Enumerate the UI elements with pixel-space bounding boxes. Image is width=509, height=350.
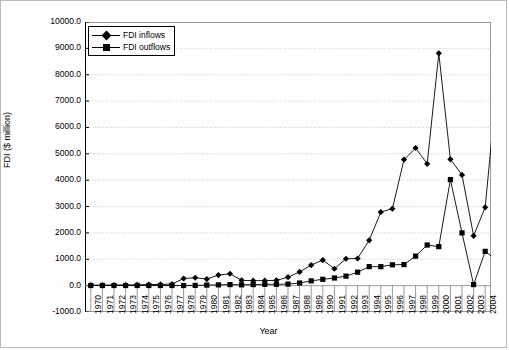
diamond-marker-icon — [92, 29, 120, 41]
legend-label-outflows: FDI outflows — [120, 41, 170, 53]
data-point — [204, 276, 210, 282]
data-point — [239, 282, 244, 287]
x-tick-label: 2002 — [466, 295, 475, 314]
data-point — [285, 274, 291, 280]
data-point — [227, 282, 232, 287]
x-tick-label: 1979 — [199, 295, 208, 314]
x-tick-label: 1978 — [187, 295, 196, 314]
data-point — [308, 262, 314, 268]
x-tick-label: 2000 — [442, 295, 451, 314]
x-tick-label: 1982 — [234, 295, 243, 314]
x-tick-label: 1973 — [129, 295, 138, 314]
data-point — [215, 272, 221, 278]
data-point — [425, 242, 430, 247]
data-point — [297, 280, 302, 285]
data-point — [355, 270, 360, 275]
data-point — [204, 283, 209, 288]
data-point — [482, 204, 488, 210]
x-tick-label: 1989 — [315, 295, 324, 314]
y-tick-label: 0.0 — [5, 281, 81, 290]
data-point — [436, 50, 442, 56]
y-tick-label: 8000.0 — [5, 70, 81, 79]
data-point — [251, 282, 256, 287]
x-tick-label: 1998 — [419, 295, 428, 314]
y-tick-label: 10000.0 — [5, 17, 81, 26]
data-point — [320, 277, 325, 282]
data-point — [181, 275, 187, 281]
data-point — [216, 282, 221, 287]
data-point — [378, 209, 384, 215]
plot-canvas — [85, 22, 491, 312]
x-tick-label: 1972 — [118, 295, 127, 314]
y-tick-label: 6000.0 — [5, 122, 81, 131]
x-tick-label: 1997 — [408, 295, 417, 314]
legend-item-inflows: FDI inflows — [92, 29, 170, 41]
x-tick-label: 1993 — [361, 295, 370, 314]
y-tick-label: 7000.0 — [5, 96, 81, 105]
x-axis-title: Year — [0, 326, 509, 336]
data-point — [227, 271, 233, 277]
data-point — [448, 177, 453, 182]
x-tick-label: 1990 — [326, 295, 335, 314]
data-point — [332, 275, 337, 280]
x-tick-label: 1985 — [268, 295, 277, 314]
data-point — [262, 282, 267, 287]
x-tick-label: 1988 — [303, 295, 312, 314]
data-point — [274, 282, 279, 287]
x-tick-label: 1970 — [94, 295, 103, 314]
chart-figure: 10000.09000.08000.07000.06000.05000.0400… — [0, 0, 509, 350]
x-tick-label: 1996 — [396, 295, 405, 314]
x-tick-label: 1986 — [280, 295, 289, 314]
chart-legend: FDI inflows FDI outflows — [88, 26, 175, 56]
data-point — [401, 262, 406, 267]
data-point — [471, 282, 476, 287]
y-tick-label: 4000.0 — [5, 175, 81, 184]
gridlines — [85, 22, 491, 312]
data-point — [378, 264, 383, 269]
data-point — [424, 161, 430, 167]
x-tick-label: 1971 — [106, 295, 115, 314]
x-tick-label: 1983 — [245, 295, 254, 314]
series-line-inflows — [91, 53, 491, 285]
data-point — [285, 281, 290, 286]
series-lines — [91, 53, 491, 285]
x-tick-label: 1999 — [431, 295, 440, 314]
y-tick-label: 3000.0 — [5, 202, 81, 211]
legend-label-inflows: FDI inflows — [120, 29, 165, 41]
data-point — [471, 233, 477, 239]
x-tick-label: 1974 — [141, 295, 150, 314]
x-tick-label: 1991 — [338, 295, 347, 314]
x-axis-title-text: Year — [259, 326, 277, 336]
x-tick-label: 1980 — [210, 295, 219, 314]
y-tick-label: 5000.0 — [5, 149, 81, 158]
y-tick-label: 1000.0 — [5, 254, 81, 263]
y-tick-label: -1000.0 — [5, 307, 81, 316]
x-tick-label: 2003 — [477, 295, 486, 314]
data-point — [366, 237, 372, 243]
x-tick-label: 2001 — [454, 295, 463, 314]
data-point — [309, 278, 314, 283]
square-marker-icon — [92, 41, 120, 53]
x-tick-label: 1995 — [384, 295, 393, 314]
x-tick-label: 1976 — [164, 295, 173, 314]
data-point — [367, 264, 372, 269]
data-point — [297, 269, 303, 275]
data-point — [192, 275, 198, 281]
y-axis-title: FDI ($ million) — [2, 112, 12, 168]
x-tick-label: 1975 — [152, 295, 161, 314]
x-tick-label: 1977 — [176, 295, 185, 314]
series-markers — [88, 50, 491, 288]
y-axis-tick-labels: 10000.09000.08000.07000.06000.05000.0400… — [0, 0, 81, 350]
data-point — [459, 230, 464, 235]
data-point — [413, 254, 418, 259]
data-point — [355, 255, 361, 261]
x-tick-label: 1994 — [373, 295, 382, 314]
x-tick-label: 1981 — [222, 295, 231, 314]
x-tick-label: 1984 — [257, 295, 266, 314]
x-tick-label: 2004 — [489, 295, 498, 314]
data-point — [343, 274, 348, 279]
legend-item-outflows: FDI outflows — [92, 41, 170, 53]
y-tick-label: 2000.0 — [5, 228, 81, 237]
data-point — [483, 249, 488, 254]
x-tick-label: 1987 — [292, 295, 301, 314]
